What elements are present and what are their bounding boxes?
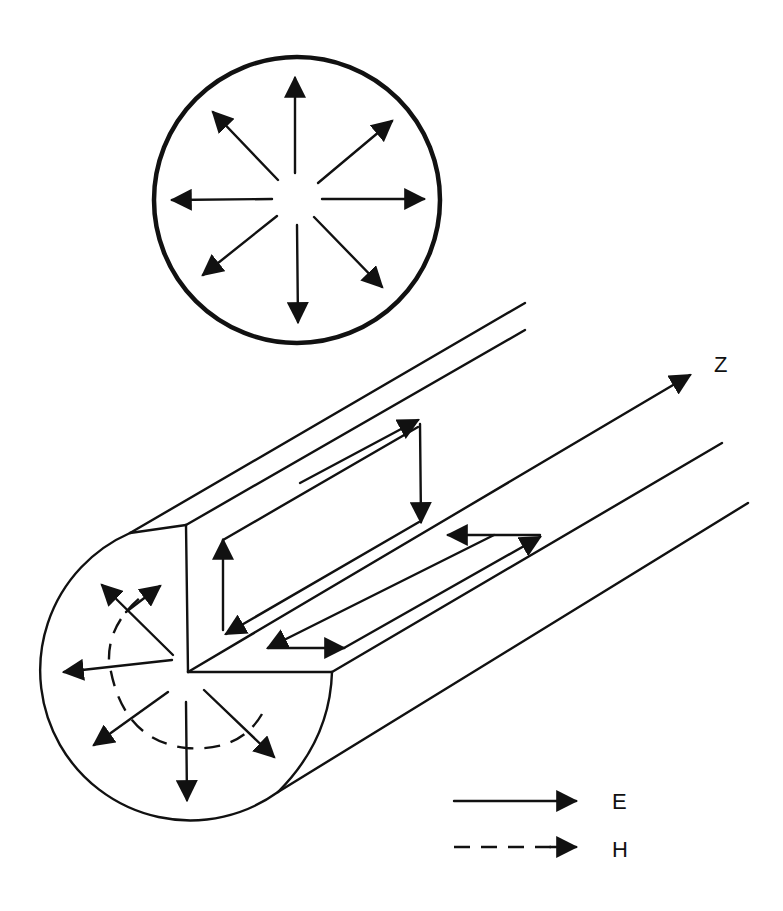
legend-h-label: H [612,837,628,862]
legend-e-label: E [612,789,627,814]
cylinder-cutaway [40,303,748,820]
waveguide-diagram: Z E H [0,0,783,911]
cross-section [154,57,440,343]
legend: E H [454,789,628,862]
vertical-face-e-loop [220,420,421,634]
z-axis-label: Z [714,352,727,377]
radial-e-arrows [172,78,424,322]
